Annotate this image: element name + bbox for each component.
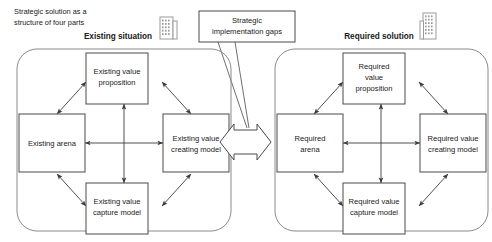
callout-leader-right [235, 42, 249, 128]
node-label: arena [300, 145, 320, 154]
node-required-value-creating-model [420, 114, 486, 172]
node-label: capture model [350, 208, 398, 217]
node-label: creating model [428, 145, 478, 154]
node-label: value [365, 73, 383, 82]
diagram-root: Strategic solution as a structure of fou… [0, 0, 492, 242]
right-panel-header: Required solution [344, 32, 414, 41]
building-icon [160, 17, 177, 39]
node-label: capture model [93, 208, 141, 217]
node-required-arena [277, 114, 343, 172]
node-label: proposition [355, 84, 392, 93]
node-label: Required value [348, 197, 399, 206]
left-panel-header: Existing situation [84, 32, 152, 41]
node-label: creating model [171, 145, 221, 154]
node-existing-value-creating-model [163, 114, 229, 172]
caption-line-2: structure of four parts [14, 18, 85, 27]
node-label: Existing value [94, 67, 141, 76]
node-label: Required [295, 134, 326, 143]
node-label: proposition [98, 78, 135, 87]
node-label: Required [359, 62, 390, 71]
strategic-solution-diagram: Strategic solution as a structure of fou… [0, 0, 492, 242]
caption-line-1: Strategic solution as a [14, 7, 88, 16]
node-label: Existing value [94, 197, 141, 206]
node-label: Existing value [173, 134, 220, 143]
node-label: Required value [427, 134, 478, 143]
node-label: Existing arena [28, 139, 77, 148]
callout-line-2: implementation gaps [212, 27, 282, 36]
building-icon [420, 13, 436, 39]
callout-line-1: Strategic [232, 16, 262, 25]
